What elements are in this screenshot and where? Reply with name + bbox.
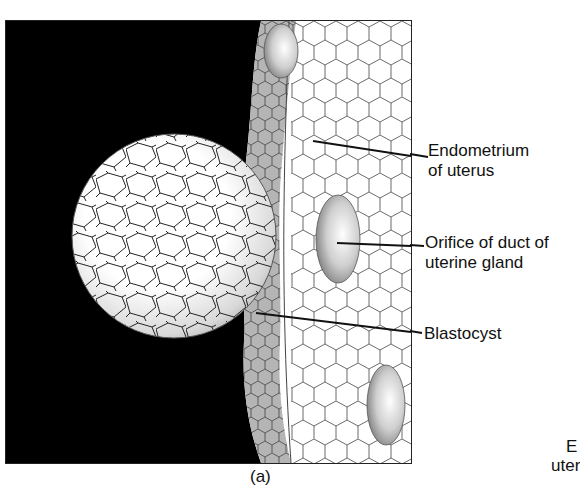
gland-orifice-middle — [316, 195, 360, 283]
gland-orifice-top — [264, 24, 298, 78]
label-orifice-line1: Orifice of duct of — [425, 233, 549, 253]
gland-orifice-bottom — [367, 365, 405, 445]
label-blastocyst: Blastocyst — [424, 324, 501, 344]
cutoff-text-line1: E — [566, 437, 577, 457]
label-orifice-line2: uterine gland — [425, 253, 549, 273]
illustration-panel — [5, 20, 412, 464]
implantation-illustration — [6, 21, 411, 463]
label-blastocyst-line1: Blastocyst — [424, 324, 501, 344]
label-endometrium-line2: of uterus — [428, 161, 529, 181]
label-endometrium-line1: Endometrium — [428, 141, 529, 161]
figure-caption: (a) — [250, 467, 271, 487]
label-endometrium: Endometrium of uterus — [428, 141, 529, 181]
cutoff-text-line2: uter — [551, 456, 580, 476]
label-orifice: Orifice of duct of uterine gland — [425, 233, 549, 273]
